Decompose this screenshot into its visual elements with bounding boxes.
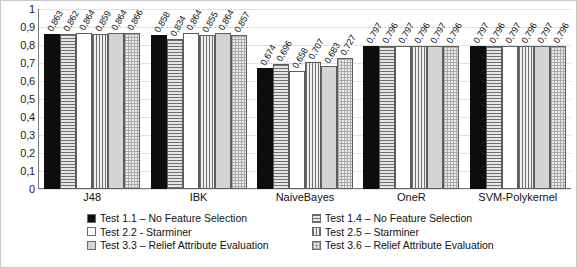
bar[interactable]: 0,859 xyxy=(92,34,108,189)
x-axis-category-label: IBK xyxy=(145,191,251,203)
bar[interactable]: 0,658 xyxy=(289,71,305,189)
bar[interactable]: 0,796 xyxy=(443,46,459,189)
bar[interactable]: 0,674 xyxy=(257,68,273,189)
bar-slot: 0,857 xyxy=(231,9,247,189)
bar-slot: 0,797 xyxy=(395,9,411,189)
bar[interactable]: 0,797 xyxy=(534,46,550,189)
bar[interactable]: 0,866 xyxy=(124,33,140,189)
bar[interactable]: 0,796 xyxy=(379,46,395,189)
legend-item[interactable]: Test 3.3 – Relief Attribute Evaluation xyxy=(87,240,292,251)
bar-slot: 0,864 xyxy=(215,9,231,189)
y-axis-tick-label: 1 xyxy=(29,3,35,15)
legend-label: Test 1.4 – No Feature Selection xyxy=(325,213,472,224)
bar[interactable]: 0,796 xyxy=(411,46,427,189)
x-axis-category-label: NaiveBayes xyxy=(252,191,358,203)
legend-item[interactable]: Test 3.6 – Relief Attribute Evaluation xyxy=(312,240,517,251)
bar-slot: 0,797 xyxy=(470,9,486,189)
legend-item[interactable]: Test 2.5 – Starminer xyxy=(312,227,517,238)
bar[interactable]: 0,727 xyxy=(337,58,353,189)
y-axis-tick-label: 0,5 xyxy=(20,93,35,105)
bar[interactable]: 0,855 xyxy=(199,35,215,189)
bar-value-label: 0,727 xyxy=(338,33,358,57)
bar[interactable]: 0,862 xyxy=(60,34,76,189)
bar-slot: 0,866 xyxy=(124,9,140,189)
bar-group: 0,7970,7960,7970,7960,7970,796 xyxy=(470,9,566,189)
y-axis-tick-label: 0,1 xyxy=(20,165,35,177)
bar[interactable]: 0,796 xyxy=(518,46,534,189)
bar[interactable]: 0,858 xyxy=(151,35,167,189)
legend-label: Test 1.1 – No Feature Selection xyxy=(100,213,247,224)
bar[interactable]: 0,864 xyxy=(108,33,124,189)
legend-swatch xyxy=(87,241,96,250)
bar-slot: 0,797 xyxy=(427,9,443,189)
chart-legend: Test 1.1 – No Feature SelectionTest 1.4 … xyxy=(87,213,517,251)
legend-label: Test 2.5 – Starminer xyxy=(325,227,419,238)
bar[interactable]: 0,797 xyxy=(470,46,486,189)
bar[interactable]: 0,696 xyxy=(273,64,289,189)
legend-swatch xyxy=(87,227,96,236)
bar-slot: 0,855 xyxy=(199,9,215,189)
y-axis-tick-label: 0,9 xyxy=(20,21,35,33)
legend-item[interactable]: Test 1.4 – No Feature Selection xyxy=(312,213,517,224)
legend-label: Test 3.6 – Relief Attribute Evaluation xyxy=(325,240,494,251)
bar[interactable]: 0,707 xyxy=(305,62,321,189)
y-axis: 00,10,20,30,40,50,60,70,80,91 xyxy=(7,9,35,189)
x-axis-category-label: SVM-Polykernel xyxy=(465,191,571,203)
bar[interactable]: 0,796 xyxy=(486,46,502,189)
bar[interactable]: 0,683 xyxy=(321,66,337,189)
x-axis-category-label: OneR xyxy=(358,191,464,203)
bar-slot: 0,797 xyxy=(363,9,379,189)
bar-slot: 0,796 xyxy=(411,9,427,189)
y-axis-tick-label: 0,7 xyxy=(20,57,35,69)
bar[interactable]: 0,797 xyxy=(427,46,443,189)
bar-slot: 0,864 xyxy=(183,9,199,189)
bar-slot: 0,864 xyxy=(108,9,124,189)
y-axis-tick-label: 0,3 xyxy=(20,129,35,141)
bar[interactable]: 0,864 xyxy=(215,33,231,189)
legend-swatch xyxy=(312,241,321,250)
bar-slot: 0,796 xyxy=(379,9,395,189)
bar-group: 0,6740,6960,6580,7070,6830,727 xyxy=(257,9,353,189)
legend-label: Test 3.3 – Relief Attribute Evaluation xyxy=(100,240,269,251)
legend-swatch xyxy=(312,227,321,236)
bar-chart-figure: 00,10,20,30,40,50,60,70,80,91 0,8630,862… xyxy=(0,0,577,268)
bar-groups: 0,8630,8620,8640,8590,8640,8660,8580,834… xyxy=(39,9,571,189)
y-axis-tick-label: 0,8 xyxy=(20,39,35,51)
bar-slot: 0,696 xyxy=(273,9,289,189)
legend-item[interactable]: Test 2.2 - Starminer xyxy=(87,227,292,238)
bar-slot: 0,796 xyxy=(518,9,534,189)
bar[interactable]: 0,864 xyxy=(183,33,199,189)
bar-slot: 0,864 xyxy=(76,9,92,189)
bar-slot: 0,797 xyxy=(502,9,518,189)
bar[interactable]: 0,797 xyxy=(502,46,518,189)
bar[interactable]: 0,864 xyxy=(76,33,92,189)
bar[interactable]: 0,857 xyxy=(231,35,247,189)
bar[interactable]: 0,834 xyxy=(167,39,183,189)
x-axis-category-labels: J48IBKNaiveBayesOneRSVM-Polykernel xyxy=(39,191,571,207)
bar-slot: 0,858 xyxy=(151,9,167,189)
bar-slot: 0,727 xyxy=(337,9,353,189)
bar-value-label: 0,866 xyxy=(126,8,146,32)
bar[interactable]: 0,863 xyxy=(44,34,60,189)
plot-region: 00,10,20,30,40,50,60,70,80,91 0,8630,862… xyxy=(1,1,577,206)
bar-group: 0,8580,8340,8640,8550,8640,857 xyxy=(151,9,247,189)
bar[interactable]: 0,796 xyxy=(550,46,566,189)
legend-swatch xyxy=(87,214,96,223)
bar-slot: 0,658 xyxy=(289,9,305,189)
y-axis-tick-label: 0,6 xyxy=(20,75,35,87)
bar-slot: 0,796 xyxy=(443,9,459,189)
bar-group: 0,7970,7960,7970,7960,7970,796 xyxy=(363,9,459,189)
bar-slot: 0,797 xyxy=(534,9,550,189)
bar[interactable]: 0,797 xyxy=(363,46,379,189)
legend-label: Test 2.2 - Starminer xyxy=(100,227,192,238)
bar-slot: 0,707 xyxy=(305,9,321,189)
bar-slot: 0,859 xyxy=(92,9,108,189)
bar-slot: 0,834 xyxy=(167,9,183,189)
legend-swatch xyxy=(312,214,321,223)
bar-slot: 0,796 xyxy=(486,9,502,189)
bar[interactable]: 0,797 xyxy=(395,46,411,189)
legend-item[interactable]: Test 1.1 – No Feature Selection xyxy=(87,213,292,224)
gridline xyxy=(39,189,571,190)
bar-value-label: 0,857 xyxy=(232,10,252,34)
bar-group: 0,8630,8620,8640,8590,8640,866 xyxy=(44,9,140,189)
